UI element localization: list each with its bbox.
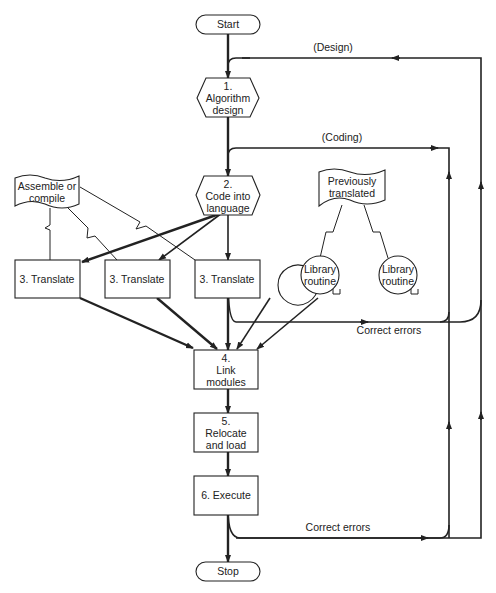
- svg-text:3. Translate: 3. Translate: [200, 273, 255, 285]
- design-loop: [228, 58, 481, 538]
- algorithm-design-node[interactable]: 1. Algorithm design: [197, 78, 259, 117]
- correct-errors-bottom-label: Correct errors: [306, 521, 371, 533]
- design-loop-label: (Design): [313, 41, 353, 53]
- svg-text:3. Translate: 3. Translate: [20, 273, 75, 285]
- svg-text:Code into: Code into: [206, 190, 251, 202]
- relocate-and-load-node[interactable]: 5. Relocate and load: [194, 413, 258, 452]
- previously-connectors: [320, 205, 388, 258]
- svg-text:Assemble or: Assemble or: [18, 180, 77, 192]
- translate-node-3[interactable]: 3. Translate: [195, 260, 260, 298]
- link-modules-node[interactable]: 4. Link modules: [194, 350, 258, 389]
- svg-text:translated: translated: [329, 187, 375, 199]
- svg-text:routine: routine: [304, 275, 336, 287]
- svg-text:Library: Library: [304, 263, 337, 275]
- flowchart-canvas: Start 1. Algorithm design 2. Code into l…: [0, 0, 496, 593]
- translate-node-1[interactable]: 3. Translate: [15, 260, 80, 298]
- svg-text:Link: Link: [216, 364, 236, 376]
- svg-text:Relocate: Relocate: [205, 427, 247, 439]
- library-routine-node-1[interactable]: Library routine: [278, 256, 340, 305]
- stop-terminal[interactable]: Stop: [196, 562, 260, 581]
- svg-text:language: language: [206, 202, 249, 214]
- code-to-translate-edges: [82, 213, 222, 262]
- svg-text:Algorithm: Algorithm: [206, 92, 251, 104]
- svg-text:design: design: [213, 104, 244, 116]
- coding-loop-label: (Coding): [322, 131, 362, 143]
- execute-node[interactable]: 6. Execute: [194, 476, 258, 515]
- correct-errors-mid-label: Correct errors: [357, 324, 422, 336]
- svg-text:4.: 4.: [222, 352, 231, 364]
- svg-text:modules: modules: [206, 376, 246, 388]
- svg-text:6. Execute: 6. Execute: [201, 489, 251, 501]
- assemble-or-compile-node[interactable]: Assemble or compile: [15, 175, 79, 208]
- coding-loop: [228, 148, 481, 538]
- svg-text:2.: 2.: [224, 178, 233, 190]
- svg-text:Previously: Previously: [328, 175, 377, 187]
- svg-text:Library: Library: [382, 263, 415, 275]
- translate-node-2[interactable]: 3. Translate: [105, 260, 170, 298]
- svg-text:compile: compile: [29, 192, 65, 204]
- previously-translated-node[interactable]: Previously translated: [319, 169, 385, 206]
- svg-text:3. Translate: 3. Translate: [110, 273, 165, 285]
- stop-label: Stop: [217, 565, 239, 577]
- svg-text:5.: 5.: [222, 415, 231, 427]
- library-routine-node-2[interactable]: Library routine: [379, 256, 418, 294]
- start-terminal[interactable]: Start: [196, 15, 260, 34]
- svg-text:routine: routine: [382, 275, 414, 287]
- translate-to-link-edges: [80, 298, 318, 349]
- start-label: Start: [217, 18, 239, 30]
- svg-text:1.: 1.: [224, 80, 233, 92]
- code-into-language-node[interactable]: 2. Code into language: [196, 176, 260, 215]
- svg-text:and load: and load: [206, 439, 246, 451]
